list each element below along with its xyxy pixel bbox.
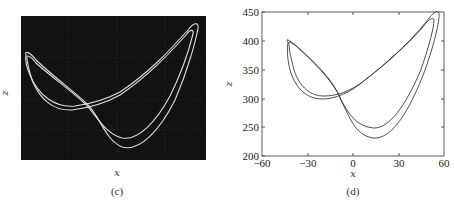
- y-tick-350: 350: [243, 64, 260, 76]
- y-tick-450: 450: [243, 6, 260, 18]
- caption-d: (d): [347, 185, 360, 198]
- caption-c: (c): [111, 185, 124, 198]
- x-tick-60: 60: [439, 157, 451, 169]
- oscilloscope-screen: [21, 16, 206, 160]
- x-tick-30: 30: [394, 157, 406, 169]
- x-tick-neg60: −60: [253, 157, 271, 169]
- figure: z x (c) 450 400 350 300 250 200: [0, 0, 454, 205]
- y-axis-label-c: z: [0, 90, 10, 97]
- y-tick-labels: 450 400 350 300 250 200: [243, 6, 260, 162]
- panel-d: 450 400 350 300 250 200 −60 −30 0 30 60 …: [223, 6, 450, 198]
- x-axis-label-d: x: [350, 168, 356, 179]
- y-tick-400: 400: [243, 35, 260, 47]
- x-tick-neg30: −30: [299, 157, 317, 169]
- y-axis-label-d: z: [223, 81, 234, 88]
- y-tick-300: 300: [243, 93, 260, 105]
- y-tick-250: 250: [243, 121, 260, 133]
- x-axis-label-c: x: [114, 167, 120, 178]
- panel-c: z x (c): [0, 16, 206, 198]
